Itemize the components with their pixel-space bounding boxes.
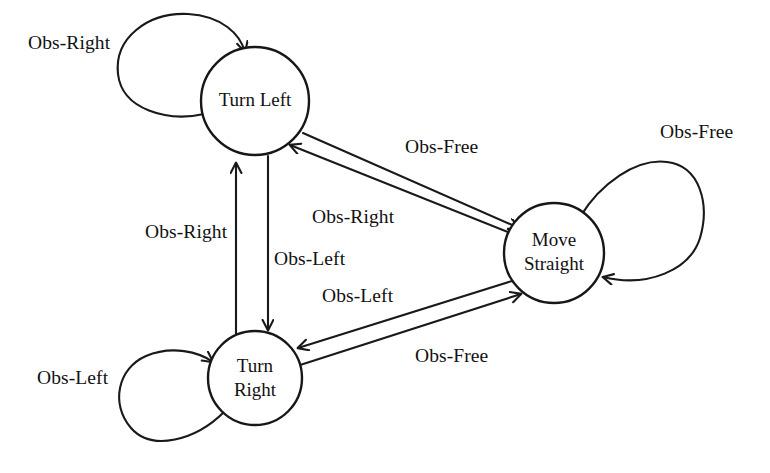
node-turn-right-label-line2: Right bbox=[234, 379, 277, 400]
node-turn-right-circle[interactable] bbox=[208, 331, 302, 425]
node-turn-right[interactable]: Turn Right bbox=[208, 331, 302, 425]
edge-label-move-straight-self-loop: Obs-Free bbox=[660, 122, 733, 142]
state-diagram: Turn Left Move Straight Turn Right Obs-R… bbox=[0, 0, 770, 473]
edge-label-move-straight-to-turn-right: Obs-Left bbox=[322, 286, 393, 306]
edge-label-turn-left-to-move-straight: Obs-Free bbox=[405, 137, 478, 157]
edge-label-turn-left-to-turn-right: Obs-Left bbox=[274, 249, 345, 269]
node-move-straight[interactable]: Move Straight bbox=[504, 203, 604, 303]
node-move-straight-label-line1: Move bbox=[532, 229, 576, 250]
node-move-straight-label-line2: Straight bbox=[524, 253, 585, 274]
edge-label-turn-right-self-loop: Obs-Left bbox=[37, 368, 108, 388]
edge-label-turn-left-self-loop: Obs-Right bbox=[28, 33, 110, 53]
edge-turn-right-self-loop bbox=[119, 350, 224, 440]
edge-label-turn-right-to-turn-left: Obs-Right bbox=[145, 222, 227, 242]
node-turn-right-label-line1: Turn bbox=[237, 355, 274, 376]
edge-label-move-straight-to-turn-left: Obs-Right bbox=[312, 207, 394, 227]
node-turn-left-label: Turn Left bbox=[219, 89, 292, 110]
diagram-canvas: Turn Left Move Straight Turn Right bbox=[0, 0, 770, 473]
edge-label-turn-right-to-move-straight: Obs-Free bbox=[415, 346, 488, 366]
node-turn-left[interactable]: Turn Left bbox=[201, 47, 309, 155]
